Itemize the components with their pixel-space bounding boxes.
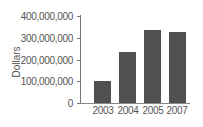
y-tick-label: 400,000,000 bbox=[21, 11, 73, 22]
y-tick-mark bbox=[77, 81, 81, 82]
x-tick-label: 2005 bbox=[140, 105, 166, 116]
x-tick-label: 2004 bbox=[115, 105, 141, 116]
y-tick-mark bbox=[77, 38, 81, 39]
x-axis-line bbox=[80, 103, 190, 104]
y-tick-mark bbox=[77, 16, 81, 17]
y-axis-line bbox=[80, 15, 81, 103]
bar-2007 bbox=[169, 32, 186, 103]
y-tick-label: 0 bbox=[68, 98, 73, 109]
y-tick-label: 300,000,000 bbox=[21, 33, 73, 44]
bar-2003 bbox=[94, 81, 111, 103]
y-tick-mark bbox=[77, 60, 81, 61]
x-tick-label: 2003 bbox=[90, 105, 116, 116]
bar-2004 bbox=[119, 52, 136, 103]
bar-2005 bbox=[144, 30, 161, 103]
y-tick-label: 100,000,000 bbox=[21, 76, 73, 87]
x-tick-label: 2007 bbox=[164, 105, 190, 116]
y-tick-label: 200,000,000 bbox=[21, 55, 73, 66]
